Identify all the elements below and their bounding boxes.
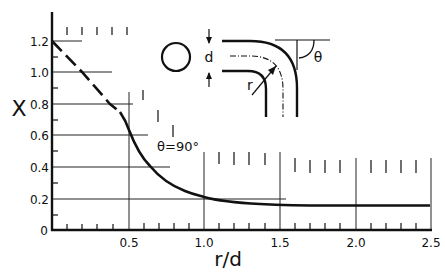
chart-container: 0 0.2 0.4 0.6 0.8 1.0 1.2 0.5 1.0 1.5 2.… [0,0,445,276]
y-tick-1-2: 1.2 [30,35,49,49]
x-tick-1-5: 1.5 [270,236,289,250]
x-axis-label: r/d [214,247,242,271]
curve-solid-segment [120,112,430,206]
y-tick-0-8: 0.8 [30,98,49,112]
x-tick-1-0: 1.0 [194,236,213,250]
x-tick-2-5: 2.5 [421,236,440,250]
y-tick-labels: 0 0.2 0.4 0.6 0.8 1.0 1.2 [30,35,49,238]
curve-dashed-segment [52,41,120,112]
angle-label: θ [314,49,323,65]
x-tick-2-0: 2.0 [346,236,365,250]
y-tick-0-2: 0.2 [30,193,49,207]
y-tick-0-6: 0.6 [30,129,49,143]
diameter-label: d [205,49,214,65]
y-tick-0-4: 0.4 [30,161,49,175]
radius-label: r [247,77,253,93]
curve-annotation: θ=90° [157,139,199,154]
y-tick-1-0: 1.0 [30,66,49,80]
inset-pipe-diagram [162,29,330,117]
y-tick-0: 0 [40,224,48,238]
tick-marks-upper [67,27,416,173]
y-axis-label: X [11,96,26,121]
axes [51,12,432,231]
x-tick-labels: 0.5 1.0 1.5 2.0 2.5 [119,236,440,250]
series-theta-90 [52,41,430,206]
x-tick-0-5: 0.5 [119,236,138,250]
pipe-cross-section-icon [162,43,190,71]
